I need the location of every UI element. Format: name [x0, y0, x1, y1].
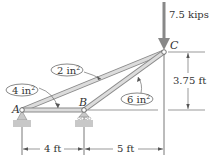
dimension-height: 3.75 ft: [173, 53, 206, 109]
node-label-c: C: [170, 39, 179, 52]
joint-a: [20, 108, 25, 113]
svg-text:5 ft: 5 ft: [117, 143, 134, 154]
load-label: 7.5 kips: [169, 9, 209, 20]
dimension-bc: 5 ft: [85, 143, 163, 154]
area-label-ac: 2 in2: [51, 64, 101, 80]
joint-c: [162, 50, 167, 55]
node-label-b: B: [78, 96, 87, 109]
dimension-ab: 4 ft: [23, 143, 83, 154]
svg-text:4 ft: 4 ft: [44, 143, 61, 154]
svg-text:3.75 ft: 3.75 ft: [173, 75, 206, 86]
node-label-a: A: [11, 103, 20, 116]
truss-diagram: A B C 7.5 kips 2 in2 4 in2 6 in2 4 ft: [0, 0, 209, 156]
